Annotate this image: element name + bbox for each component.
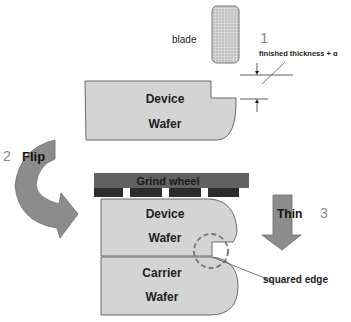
device-wafer-top-line1: Device: [146, 92, 185, 106]
step1-number: 1: [260, 29, 268, 46]
carrier-wafer-line1: Carrier: [142, 266, 182, 280]
step3-number: 3: [320, 205, 328, 221]
grind-wheel-label: Grind wheel: [137, 175, 200, 187]
thin-arrow-icon: [262, 195, 301, 250]
device-wafer-top: Device Wafer: [85, 81, 236, 140]
blade-icon: [212, 6, 239, 63]
flip-label: Flip: [22, 149, 45, 164]
thin-label: Thin: [277, 207, 302, 221]
blade-label: blade: [172, 34, 197, 45]
thickness-label: finished thickness + α: [259, 49, 338, 58]
device-wafer-bottom-line1: Device: [146, 207, 185, 221]
arrow-up-icon: [255, 99, 259, 103]
thickness-dimension: [240, 62, 293, 112]
squared-edge-label: squared edge: [263, 274, 328, 285]
edge-trimming-diagram: blade 1 finished thickness + α Device Wa…: [0, 0, 351, 322]
device-wafer-bottom-line2: Wafer: [149, 231, 182, 245]
device-wafer-bottom: Device Wafer: [101, 199, 237, 256]
carrier-wafer-line2: Wafer: [146, 290, 179, 304]
carrier-wafer: Carrier Wafer: [101, 257, 238, 315]
step2-number: 2: [3, 148, 11, 164]
device-wafer-top-line2: Wafer: [149, 117, 182, 131]
grind-wheel: Grind wheel: [94, 173, 249, 197]
arrow-down-icon: [255, 71, 259, 75]
